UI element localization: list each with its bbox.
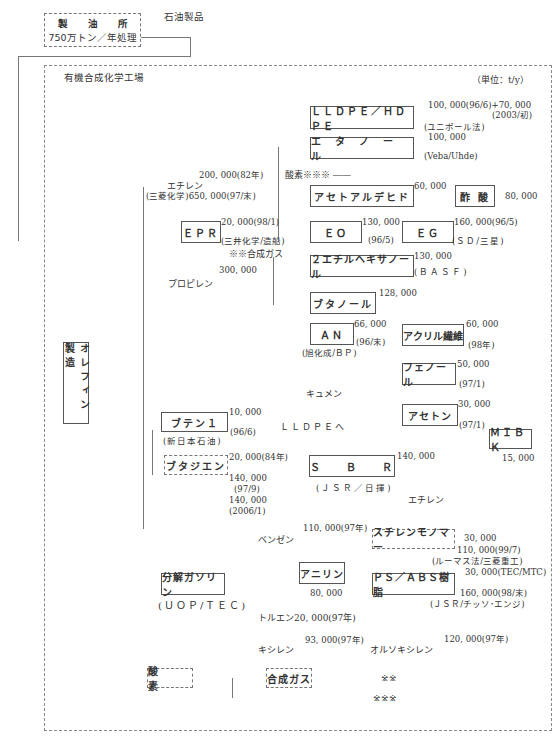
sbr-capacity: 140, 000 <box>397 452 435 462</box>
phenol-box: フェノール <box>402 363 456 385</box>
xylene-label: キシレン <box>258 645 294 655</box>
propylene-label: プロピレン <box>168 279 213 289</box>
oxygen-box: 酸 素 <box>147 668 193 688</box>
eg-licensor: (ＳＤ/三星) <box>452 237 505 247</box>
syngas-reference: ※※合成ガス <box>229 249 283 259</box>
to-lldpe-label: ＬＬＤＰＥへ <box>280 422 346 432</box>
ethanol-box: エ タ ノ ー ル <box>310 137 414 159</box>
butadiene-date-2: (97/9) <box>234 485 260 495</box>
butene-capacity: 10, 000 <box>229 408 261 418</box>
oxygen-reference: 酸素※※※ ―― <box>285 170 351 180</box>
cumene-label: キュメン <box>306 389 342 399</box>
mibk-box: ＭＩＢＫ <box>489 429 532 449</box>
psabs-capacity-2: 160, 000(98/末) <box>460 589 527 599</box>
styrene-monomer-box: スチレンモノマー <box>372 529 455 549</box>
olefin-production-box: オレフィン製造 <box>63 342 89 424</box>
eo-capacity: 130, 000 <box>362 218 400 228</box>
syngas-box: 合成ガス <box>266 668 312 688</box>
eo-date: (96/5) <box>368 236 394 246</box>
sbr-licensor: (ＪＳＲ／日揮) <box>316 484 393 494</box>
ethylene-label-2: エチレン <box>408 495 444 505</box>
connector <box>232 678 233 698</box>
acrylic-date: (98年) <box>468 341 494 351</box>
connector <box>141 37 191 38</box>
ethylene-capacity-2: (三菱化学)650, 000(97/末) <box>146 192 256 202</box>
connector <box>18 56 191 57</box>
propylene-capacity: 300, 000 <box>219 266 257 276</box>
psabs-licensor: (ＪＳＲ/チッソ･エンジ) <box>430 600 525 610</box>
cracked-gasoline-box: 分解ガソリン <box>161 573 225 595</box>
phenol-capacity: 50, 000 <box>457 360 489 370</box>
epr-capacity: 20, 000(98/1) <box>221 218 279 228</box>
aniline-box: アニリン <box>299 562 345 584</box>
2-ethylhexanol-capacity: 130, 000 <box>414 252 452 262</box>
refinery-capacity: 750万トン／年処理 <box>48 30 136 44</box>
butene-date: (96/6) <box>230 428 256 438</box>
butadiene-capacity-2: 140, 000 <box>229 474 267 484</box>
plant-frame <box>44 65 552 731</box>
connector <box>18 56 19 241</box>
sbr-box: Ｓ Ｂ Ｒ <box>309 455 395 477</box>
an-licensor: (旭化成/ＢＰ) <box>302 349 357 359</box>
acrylic-fiber-box: アクリル繊維 <box>402 324 464 346</box>
footnote-double: ※※ <box>381 673 397 683</box>
benzene-label: ベンゼン <box>258 535 294 545</box>
butadiene-date-3: (2006/1) <box>229 507 266 517</box>
an-capacity: 66, 000 <box>354 320 386 330</box>
connector <box>143 187 144 529</box>
styrene-licensor: (ルーマス法/三菱重工) <box>432 557 523 567</box>
acetone-box: アセトン <box>402 404 458 426</box>
styrene-capacity-2: 110, 000(99/7) <box>457 546 521 556</box>
toluene-label: トルエン20, 000(97年) <box>258 613 356 623</box>
eg-box: ＥＧ <box>402 221 454 243</box>
an-date: (96/末) <box>356 338 385 348</box>
acetaldehyde-box: アセトアルデヒド <box>310 185 414 207</box>
ethanol-capacity: 100, 000 <box>428 133 466 143</box>
o-xylene-label: オルソキシレン <box>370 645 433 655</box>
refinery-box: 製 油 所 750万トン／年処理 <box>44 13 141 47</box>
plant-title: 有機合成化学工場 <box>64 73 144 84</box>
acetaldehyde-capacity: 60, 000 <box>414 182 446 192</box>
butadiene-capacity-3: 140, 000 <box>229 496 267 506</box>
butanol-box: ブタノール <box>310 292 376 314</box>
cracked-gasoline-licensor: (ＵＯＰ/ＴＥＣ) <box>158 600 247 612</box>
epr-licensor: (三井化学/造船) <box>221 237 285 247</box>
footnote-triple: ※※※ <box>373 693 397 703</box>
2-ethylhexanol-licensor: (ＢＡＳＦ) <box>414 268 469 278</box>
butene-licensor: (新日本石油) <box>163 437 222 447</box>
butanol-capacity: 128, 000 <box>379 289 417 299</box>
butadiene-capacity-1: 20, 000(84年) <box>229 453 288 463</box>
aniline-capacity: 80, 000 <box>310 589 342 599</box>
psabs-capacity-1: 30, 000(TEC/MTC) <box>465 568 546 578</box>
lldpe-date: (2003/初) <box>492 111 532 121</box>
phenol-date: (97/1) <box>459 380 485 390</box>
styrene-capacity-1: 30, 000 <box>464 534 496 544</box>
xylene-capacity: 93, 000(97年) <box>305 636 364 646</box>
acetic-acid-capacity: 80, 000 <box>505 192 537 202</box>
unit-label: （単位：t/y） <box>472 75 529 85</box>
lldpe-hdpe-box: ＬＬＤＰＥ／ＨＤＰＥ <box>310 106 414 129</box>
petroleum-products-label: 石油製品 <box>164 12 204 23</box>
benzene-capacity: 110, 000(97年) <box>303 524 367 534</box>
epr-box: ＥＰＲ <box>181 221 221 243</box>
butene-1-box: ブテン１ <box>161 412 228 432</box>
ethylene-capacity: 200, 000(82年) <box>199 171 263 181</box>
ethanol-process: (Veba/Uhde) <box>424 152 478 162</box>
mibk-capacity: 15, 000 <box>502 454 534 464</box>
connector <box>190 37 191 57</box>
o-xylene-capacity: 120, 000(97年) <box>444 635 508 645</box>
connector <box>152 430 153 475</box>
ps-abs-resin-box: ＰＳ／ＡＢＳ樹脂 <box>372 573 455 595</box>
eo-box: ＥＯ <box>310 221 362 243</box>
connector <box>273 257 274 305</box>
2-ethylhexanol-box: ２エチルヘキサノール <box>310 255 414 277</box>
acetic-acid-box: 酢 酸 <box>455 185 495 207</box>
refinery-title: 製 油 所 <box>58 16 128 30</box>
acetone-capacity: 30, 000 <box>458 400 490 410</box>
ethylene-label: エチレン <box>167 181 203 191</box>
butadiene-box: ブタジエン <box>164 455 228 475</box>
an-box: ＡＮ <box>310 323 354 345</box>
acetone-date: (97/1) <box>459 421 485 431</box>
eg-capacity: 160, 000(96/5) <box>454 218 518 228</box>
acrylic-capacity: 60, 000 <box>466 320 498 330</box>
